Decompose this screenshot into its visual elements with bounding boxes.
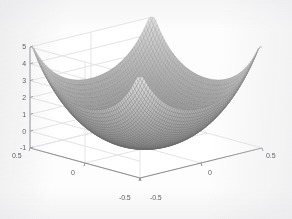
y-tick-label-neg0point5: -0.5 [119,194,131,201]
z-tick-label-5: 5 [13,43,26,50]
surface-plot-canvas [0,0,292,219]
y-tick-label-0: 0 [71,169,75,176]
x-tick-label-0point5: 0.5 [266,152,275,159]
x-tick-label-neg0point5: -0.5 [150,194,162,201]
z-tick-label-0: 0 [13,128,26,135]
z-tick-label-4: 4 [13,60,26,67]
z-tick-label-3: 3 [13,77,26,84]
figure-3d-surface-plot: 5 4 3 2 1 0 -1 0.5 0 -0.5 -0.5 0 0.5 [0,0,292,219]
z-tick-label-1: 1 [13,111,26,118]
z-tick-label-neg1: -1 [13,144,26,151]
x-tick-label-0: 0 [208,169,212,176]
y-tick-label-0point5: 0.5 [12,152,21,159]
z-tick-label-2: 2 [13,94,26,101]
